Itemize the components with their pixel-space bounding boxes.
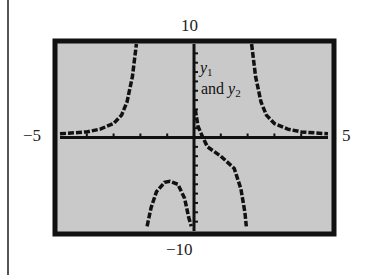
annotation-sub: 1	[207, 66, 213, 78]
annotation-text: and	[201, 80, 228, 97]
annotation-and-y2: and y2	[201, 81, 241, 99]
calculator-graph-screen	[0, 0, 365, 275]
annotation-y1: y1	[200, 60, 213, 78]
annotation-sub: 2	[235, 87, 241, 99]
